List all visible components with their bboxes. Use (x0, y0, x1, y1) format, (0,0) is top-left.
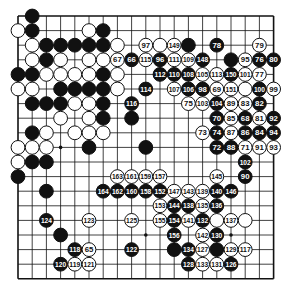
stone-circle (96, 38, 110, 52)
black-stone (167, 243, 181, 257)
move-number: 142 (197, 232, 208, 239)
move-number: 72 (212, 143, 221, 152)
move-number: 81 (255, 114, 264, 123)
move-number: 107 (169, 86, 180, 93)
white-stone (153, 38, 167, 52)
stone-circle (25, 53, 39, 67)
black-stone (139, 141, 153, 155)
move-number: 144 (169, 202, 180, 209)
black-stone (96, 82, 110, 96)
move-number: 65 (85, 245, 94, 254)
move-number: 80 (269, 55, 278, 64)
move-number: 75 (184, 99, 193, 108)
black-stone: 84 (253, 126, 267, 140)
black-stone: 112 (153, 68, 167, 82)
black-stone (82, 141, 96, 155)
move-number: 115 (140, 56, 151, 63)
black-stone (96, 68, 110, 82)
move-number: 104 (211, 100, 222, 107)
stone-circle (125, 111, 139, 125)
black-stone: 70 (210, 111, 224, 125)
stone-circle (82, 126, 96, 140)
black-stone (25, 126, 39, 140)
black-stone (68, 38, 82, 52)
black-stone (182, 38, 196, 52)
white-stone (210, 214, 224, 228)
white-stone (11, 141, 25, 155)
stone-circle (54, 38, 68, 52)
stone-circle (25, 82, 39, 96)
black-stone: 134 (182, 243, 196, 257)
move-number: 93 (269, 143, 278, 152)
stone-circle (238, 82, 252, 96)
black-stone: 68 (238, 111, 252, 125)
move-number: 106 (183, 86, 194, 93)
stone-circle (82, 24, 96, 38)
move-number: 76 (255, 55, 264, 64)
move-number: 133 (197, 261, 208, 268)
black-stone: 124 (40, 214, 54, 228)
white-stone (54, 111, 68, 125)
stone-circle (40, 68, 54, 82)
white-stone: 83 (238, 97, 252, 111)
black-stone: 140 (210, 184, 224, 198)
black-stone (25, 68, 39, 82)
move-number: 154 (169, 217, 180, 224)
stone-circle (25, 126, 39, 140)
white-stone: 103 (196, 97, 210, 111)
move-number: 79 (255, 41, 264, 50)
black-stone: 86 (238, 126, 252, 140)
stone-circle (82, 82, 96, 96)
move-number: 143 (183, 188, 194, 195)
stone-circle (11, 24, 25, 38)
move-number: 74 (212, 128, 221, 137)
black-stone: 98 (196, 82, 210, 96)
stone-circle (54, 111, 68, 125)
white-stone: 101 (238, 68, 252, 82)
white-stone (82, 24, 96, 38)
star-point (59, 146, 63, 150)
move-number: 138 (183, 202, 194, 209)
white-stone: 117 (238, 243, 252, 257)
white-stone (25, 53, 39, 67)
black-stone (96, 38, 110, 52)
stone-circle (40, 141, 54, 155)
move-number: 102 (240, 159, 251, 166)
stone-circle (96, 82, 110, 96)
black-stone (68, 82, 82, 96)
black-stone (40, 53, 54, 67)
stone-circle (153, 38, 167, 52)
stone-circle (82, 53, 96, 67)
move-number: 73 (198, 128, 207, 137)
white-stone: 159 (139, 170, 153, 184)
move-number: 148 (197, 56, 208, 63)
move-number: 100 (254, 86, 265, 93)
move-number: 132 (197, 217, 208, 224)
black-stone: 126 (224, 257, 238, 271)
move-number: 119 (69, 261, 80, 268)
white-stone: 67 (111, 53, 125, 67)
move-number: 123 (84, 217, 95, 224)
black-stone (82, 38, 96, 52)
move-number: 136 (211, 202, 222, 209)
white-stone: 137 (224, 214, 238, 228)
move-number: 116 (126, 100, 137, 107)
move-number: 68 (241, 114, 250, 123)
move-number: 135 (197, 202, 208, 209)
black-stone: 80 (267, 53, 281, 67)
black-stone (96, 97, 110, 111)
black-stone (96, 24, 110, 38)
move-number: 157 (155, 173, 166, 180)
stone-circle (82, 68, 96, 82)
white-stone: 97 (139, 38, 153, 52)
white-stone: 135 (196, 199, 210, 213)
black-stone: 158 (139, 184, 153, 198)
black-stone: 122 (125, 243, 139, 257)
stone-circle (68, 68, 82, 82)
move-number: 112 (155, 71, 166, 78)
go-board[interactable]: 9714978796766115961111091489576801121101… (0, 0, 287, 293)
stone-circle (82, 111, 96, 125)
stone-circle (111, 82, 125, 96)
move-number: 90 (241, 172, 250, 181)
white-stone (82, 97, 96, 111)
